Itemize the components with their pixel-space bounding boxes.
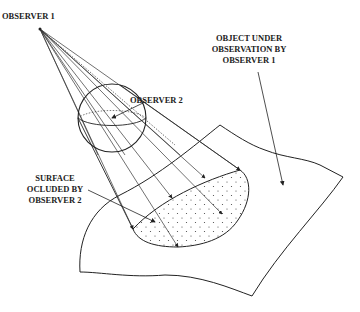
- object-arrow: [258, 72, 283, 185]
- observer1-label: OBSERVER 1: [2, 11, 55, 22]
- occluded-label-line2: OCLUDED BY: [22, 184, 88, 195]
- occluded-label-line1: SURFACE: [22, 173, 88, 184]
- occluded-label-line3: OBSERVER 2: [22, 195, 88, 206]
- observer2-label: OBSERVER 2: [130, 95, 183, 106]
- object-label-line3: OBSERVER 1: [206, 55, 292, 66]
- occluded-label: SURFACE OCLUDED BY OBSERVER 2: [22, 173, 88, 206]
- occluded-region: [120, 160, 260, 255]
- object-label-line2: OBSERVATION BY: [206, 44, 292, 55]
- observer1-point: [39, 28, 42, 31]
- object-label-line1: OBJECT UNDER: [206, 33, 292, 44]
- occlusion-diagram: OBSERVER 1 OBSERVER 2 OBJECT UNDER OBSER…: [0, 0, 360, 312]
- object-label: OBJECT UNDER OBSERVATION BY OBSERVER 1: [206, 33, 292, 66]
